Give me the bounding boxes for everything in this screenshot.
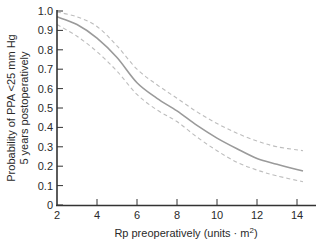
y-tick-label: 0.8	[38, 44, 53, 56]
y-axis-title-line: 5 years postoperatively	[18, 51, 30, 165]
lower-ci-curve	[57, 25, 303, 182]
x-axis-ticks: 2468101214	[54, 199, 303, 221]
y-axis-ticks: 00.10.20.30.40.50.60.70.80.91.0	[38, 5, 63, 211]
y-tick-label: 0.1	[38, 180, 53, 192]
x-tick-label: 14	[291, 209, 303, 221]
y-tick-label: 0	[47, 199, 53, 211]
x-tick-label: 12	[251, 209, 263, 221]
y-tick-label: 0.3	[38, 141, 53, 153]
y-axis-title-line: Probability of PPA <25 mm Hg	[5, 34, 17, 181]
y-tick-label: 0.9	[38, 24, 53, 36]
plot-series	[57, 12, 303, 182]
y-tick-label: 0.7	[38, 63, 53, 75]
x-tick-label: 2	[54, 209, 60, 221]
x-tick-label: 10	[211, 209, 223, 221]
probability-curve	[57, 17, 303, 171]
x-tick-label: 4	[94, 209, 100, 221]
y-tick-label: 0.4	[38, 121, 53, 133]
y-tick-label: 0.2	[38, 160, 53, 172]
chart: Probability of PPA <25 mm Hg5 years post…	[0, 0, 327, 242]
y-tick-label: 0.6	[38, 83, 53, 95]
y-tick-label: 0.5	[38, 102, 53, 114]
x-tick-label: 8	[174, 209, 180, 221]
upper-ci-curve	[57, 12, 303, 151]
x-axis-title: Rp preoperatively (units · m2)	[114, 226, 257, 239]
y-axis-title: Probability of PPA <25 mm Hg5 years post…	[5, 34, 30, 181]
x-tick-label: 6	[134, 209, 140, 221]
y-tick-label: 1.0	[38, 5, 53, 17]
